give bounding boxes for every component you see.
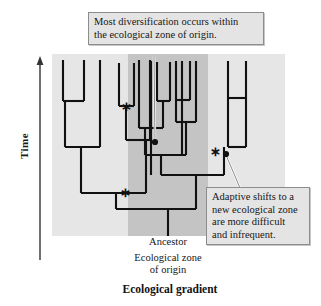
x-axis-label: Ecological gradient [60, 283, 280, 295]
callout-top-line2: the ecological zone of origin. [94, 29, 258, 42]
asterisk-marker-2: ∗ [120, 185, 131, 200]
time-axis-arrowhead [37, 56, 44, 65]
ecological-zone-of-origin-label: Ecological zone of origin [118, 252, 218, 276]
callout-top-line1: Most diversification occurs within [94, 16, 258, 29]
callout-diversification: Most diversification occurs within the e… [88, 12, 264, 45]
asterisk-marker-1: ∗ [121, 99, 132, 114]
ancestor-label: Ancestor [128, 236, 208, 248]
callout-bottom-line4: and infrequent. [212, 229, 304, 242]
zone-label-line1: Ecological zone [118, 252, 218, 264]
leader-dot-bottom [223, 151, 229, 157]
callout-adaptive-shifts: Adaptive shifts to a new ecological zone… [206, 187, 310, 245]
callout-bottom-line1: Adaptive shifts to a [212, 191, 304, 204]
leader-dot-top [152, 139, 158, 145]
ecological-gradient-figure: ∗ ∗ ∗ Most diversification occurs within… [0, 0, 321, 306]
callout-bottom-line3: are more difficult [212, 216, 304, 229]
callout-bottom-line2: new ecological zone [212, 204, 304, 217]
asterisk-marker-3: ∗ [210, 144, 221, 159]
y-axis-label: Time [18, 116, 30, 176]
zone-label-line2: of origin [118, 264, 218, 276]
